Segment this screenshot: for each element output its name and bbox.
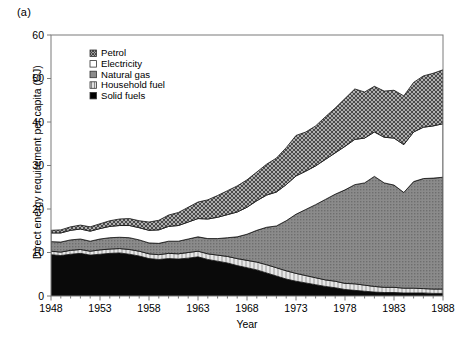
legend-label: Natural gas bbox=[101, 69, 150, 80]
legend-label: Household fuel bbox=[101, 79, 165, 90]
panel-label: (a) bbox=[17, 6, 31, 18]
legend-label: Electricity bbox=[101, 58, 142, 69]
legend-label: Solid fuels bbox=[101, 90, 145, 101]
x-tick-label: 1948 bbox=[39, 302, 63, 314]
x-tick-label: 1978 bbox=[333, 302, 357, 314]
figure-panel-a: (a) Direct energy requirement per capita… bbox=[0, 0, 464, 339]
x-axis-ticks: 194819531958196319681973197819831988 bbox=[39, 296, 455, 314]
x-tick-label: 1963 bbox=[186, 302, 210, 314]
legend-label: Petrol bbox=[101, 47, 126, 58]
legend-swatch-natural-gas-grey bbox=[90, 71, 97, 78]
stacked-area-chart: 0102030405060 19481953195819631968197319… bbox=[0, 0, 464, 339]
legend-swatch-household-light bbox=[90, 82, 97, 89]
y-axis-label: Direct energy requirement per capita (GJ… bbox=[31, 32, 43, 292]
legend-swatch-electricity-white bbox=[90, 61, 97, 68]
legend-swatch-petrol-hatch bbox=[90, 50, 97, 57]
x-tick-label: 1973 bbox=[284, 302, 308, 314]
legend-swatch-solid-black bbox=[90, 92, 97, 99]
x-tick-label: 1968 bbox=[235, 302, 259, 314]
x-tick-label: 1958 bbox=[137, 302, 161, 314]
x-tick-label: 1953 bbox=[88, 302, 112, 314]
x-tick-label: 1983 bbox=[382, 302, 406, 314]
x-axis-label: Year bbox=[51, 318, 443, 330]
x-tick-label: 1988 bbox=[431, 302, 455, 314]
